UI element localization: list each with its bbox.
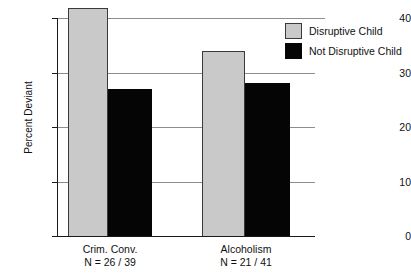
y-tick-label-10: 10 [377,177,411,188]
y-tick-mark-10 [52,182,58,183]
y-tick-mark-0 [52,236,58,237]
black-swatch-icon [285,43,302,59]
legend-item-disruptive: Disruptive Child [285,21,402,41]
legend-label: Disruptive Child [309,25,383,37]
x-group-label-crim-conv: Crim. Conv. N = 26 / 39 [50,243,170,269]
x-group-label-alcoholism: Alcoholism N = 21 / 41 [186,243,306,269]
bar-crim-conv-disruptive [68,8,108,237]
x-group-n: N = 26 / 39 [50,256,170,269]
bar-alcoholism-disruptive [202,51,245,237]
gray-swatch-icon [285,23,302,39]
y-tick-mark-40 [52,18,58,19]
x-group-name: Alcoholism [221,243,272,255]
y-axis-title: Percent Deviant [23,38,34,198]
bar-chart: 40 30 20 10 0 Percent Deviant Crim. Conv… [0,0,411,280]
bar-crim-conv-not-disruptive [108,89,152,237]
legend-label: Not Disruptive Child [309,45,402,57]
legend: Disruptive Child Not Disruptive Child [285,21,402,61]
x-group-n: N = 21 / 41 [186,256,306,269]
y-tick-mark-30 [52,73,58,74]
x-group-name: Crim. Conv. [83,243,138,255]
x-axis-line [57,236,315,237]
bar-alcoholism-not-disruptive [245,83,290,237]
y-tick-label-0: 0 [377,231,411,242]
legend-item-not-disruptive: Not Disruptive Child [285,41,402,61]
y-tick-label-20: 20 [377,122,411,133]
y-tick-mark-20 [52,127,58,128]
y-tick-label-30: 30 [377,68,411,79]
